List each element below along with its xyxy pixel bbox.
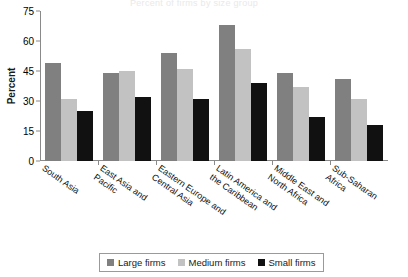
- bar-group: [330, 11, 388, 161]
- bar-small: [367, 125, 383, 161]
- y-tick-label: 75: [23, 6, 34, 17]
- legend-swatch-icon: [178, 259, 185, 266]
- bar-groups: [40, 11, 388, 161]
- legend-label: Small firms: [269, 257, 316, 268]
- bar-large: [277, 73, 293, 161]
- bar-medium: [177, 69, 193, 161]
- chart-legend: Large firmsMedium firmsSmall firms: [99, 253, 324, 272]
- y-tick-label: 60: [23, 36, 34, 47]
- bar-small: [77, 111, 93, 161]
- bar-group: [156, 11, 214, 161]
- bar-small: [309, 117, 325, 161]
- bar-group: [98, 11, 156, 161]
- y-tick-label: 30: [23, 96, 34, 107]
- y-tick-label: 45: [23, 66, 34, 77]
- bar-small: [193, 99, 209, 161]
- bar-small: [251, 83, 267, 161]
- legend-item[interactable]: Medium firms: [178, 257, 246, 268]
- legend-label: Medium firms: [189, 257, 246, 268]
- bar-large: [103, 73, 119, 161]
- y-tick-label: 15: [23, 126, 34, 137]
- chart-root: Percent of firms by size group Percent 0…: [0, 0, 408, 277]
- bar-medium: [235, 49, 251, 161]
- legend-item[interactable]: Small firms: [258, 257, 316, 268]
- legend-swatch-icon: [107, 259, 114, 266]
- bar-large: [335, 79, 351, 161]
- bar-medium: [61, 99, 77, 161]
- bar-large: [161, 53, 177, 161]
- bar-medium: [293, 87, 309, 161]
- bar-group: [40, 11, 98, 161]
- chart-title-cropped: Percent of firms by size group: [130, 0, 300, 10]
- x-category-labels: South AsiaEast Asia and PacificEastern E…: [40, 163, 388, 243]
- plot-area: 01530456075: [40, 11, 388, 161]
- legend-swatch-icon: [258, 259, 265, 266]
- bar-medium: [351, 99, 367, 161]
- legend-label: Large firms: [118, 257, 166, 268]
- bar-small: [135, 97, 151, 161]
- bar-medium: [119, 71, 135, 161]
- bar-group: [214, 11, 272, 161]
- bar-large: [45, 63, 61, 161]
- bar-large: [219, 25, 235, 161]
- y-tick-label: 0: [28, 156, 34, 167]
- legend-item[interactable]: Large firms: [107, 257, 166, 268]
- bar-group: [272, 11, 330, 161]
- y-axis-label: Percent: [4, 11, 18, 161]
